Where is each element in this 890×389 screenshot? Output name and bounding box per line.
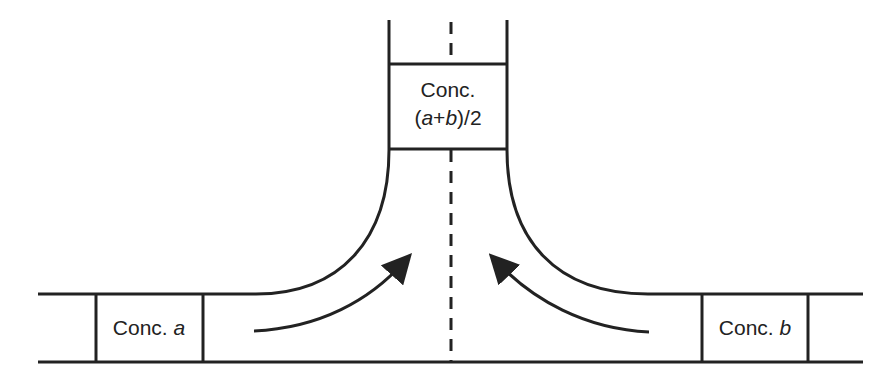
right-flow-arrow — [497, 262, 649, 332]
t-junction-diagram: Conc. (a+b)/2 Conc. a Conc. b — [0, 0, 890, 389]
left-box-label: Conc. a — [113, 316, 185, 339]
right-box-label: Conc. b — [719, 316, 792, 339]
right-channel-wall — [507, 20, 863, 294]
top-box-label-line1: Conc. — [421, 78, 476, 101]
top-box-label-line2: (a+b)/2 — [414, 106, 481, 129]
left-channel-wall — [38, 20, 389, 294]
left-flow-arrow — [254, 262, 404, 331]
